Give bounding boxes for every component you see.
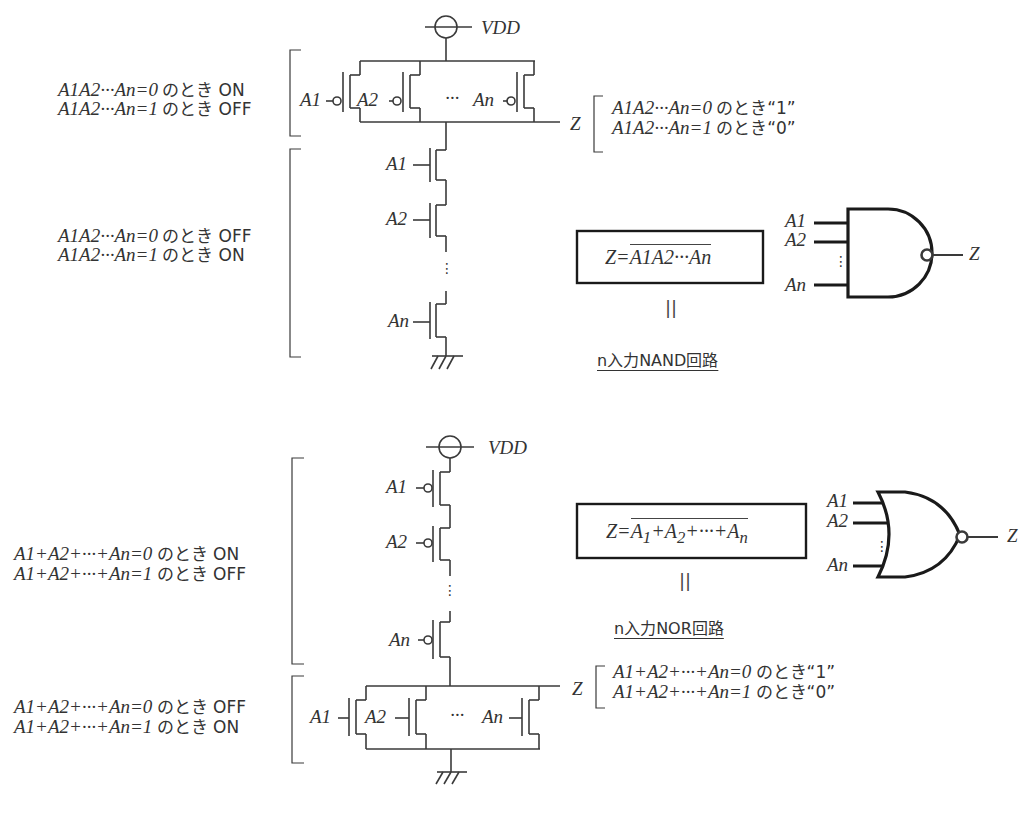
nand-nmos-note-line2: A1A2···An=1 のとき ON bbox=[58, 245, 245, 266]
nor-nmos-input-a1: A1 bbox=[310, 707, 331, 728]
vdd-symbol-nand bbox=[425, 16, 472, 61]
text: のとき“0” bbox=[756, 682, 835, 702]
nand-output-z: Z bbox=[570, 114, 581, 135]
input-label: A2 bbox=[357, 89, 378, 110]
nand-gate-output-z: Z bbox=[969, 244, 980, 265]
nor-output-note-line2: A1+A2+···+An=1 のとき“0” bbox=[613, 682, 835, 703]
nand-nmos-input-an: An bbox=[388, 311, 409, 332]
nand-vdd-label: VDD bbox=[481, 18, 520, 39]
text: のとき“1” bbox=[716, 98, 795, 118]
nor-pmos-note-line2: A1+A2+···+An=1 のとき OFF bbox=[14, 564, 246, 585]
input-label: A2 bbox=[386, 208, 407, 229]
input-label: An bbox=[389, 629, 410, 650]
text: のとき ON bbox=[162, 80, 245, 100]
expr: A1+A2+···+An=0 bbox=[14, 543, 152, 564]
nand-nmos-input-a2: A2 bbox=[386, 209, 407, 230]
nor-pmos-vdots: ⋮ bbox=[443, 580, 457, 601]
nor-nmos-note-line2: A1+A2+···+An=1 のとき ON bbox=[14, 717, 239, 738]
input-label: A1 bbox=[310, 706, 331, 727]
input-label: A1 bbox=[785, 210, 806, 231]
nor-output-z: Z bbox=[572, 679, 583, 700]
nor-output-note-line1: A1+A2+···+An=0 のとき“1” bbox=[613, 662, 835, 683]
ellipsis: ⋮ bbox=[443, 582, 457, 598]
expr: A1A2···An=0 bbox=[612, 97, 712, 118]
svg-text:⋮: ⋮ bbox=[875, 538, 889, 554]
nand-title: n入力NAND回路 bbox=[597, 347, 718, 371]
text: のとき ON bbox=[162, 245, 245, 265]
input-label: A2 bbox=[386, 531, 407, 552]
input-label: An bbox=[482, 706, 503, 727]
nor-gate-input-an: An bbox=[827, 555, 848, 576]
nor-equals-mark: || bbox=[679, 570, 691, 591]
text: のとき“0” bbox=[716, 118, 795, 138]
input-label: A2 bbox=[785, 229, 806, 250]
nor-pmos-input-an: An bbox=[389, 630, 410, 651]
expr: A1A2···An=0 bbox=[58, 225, 158, 246]
text: のとき“1” bbox=[756, 662, 835, 682]
nand-pmos-input-a2: A2 bbox=[357, 90, 378, 111]
expr: A1+A2+···+An=0 bbox=[14, 696, 152, 717]
circuit-diagram: ⋮ bbox=[0, 0, 1032, 814]
nor-nmos-network bbox=[338, 686, 560, 784]
ellipsis: ··· bbox=[450, 704, 464, 725]
nor-gate-output-z: Z bbox=[1007, 526, 1018, 547]
nand-gate-input-a2: A2 bbox=[785, 230, 806, 251]
nand-equals-mark: || bbox=[665, 297, 677, 318]
input-label: A1 bbox=[386, 153, 407, 174]
z-label: Z bbox=[969, 243, 980, 264]
ellipsis: ⋮ bbox=[440, 260, 454, 276]
input-label: A1 bbox=[300, 89, 321, 110]
formula-a2: A2 bbox=[652, 244, 674, 268]
expr: A1A2···An=1 bbox=[612, 117, 712, 138]
nor-nmos-note-line1: A1+A2+···+An=0 のとき OFF bbox=[14, 697, 246, 718]
input-label: An bbox=[785, 274, 806, 295]
expr: A1A2···An=1 bbox=[58, 98, 158, 119]
vdd-text: VDD bbox=[481, 17, 520, 38]
ellipsis: ··· bbox=[445, 87, 459, 108]
input-label: A1 bbox=[386, 476, 407, 497]
nand-pmos-ellipsis: ··· bbox=[445, 88, 459, 109]
nor-nmos-input-an: An bbox=[482, 707, 503, 728]
nor-formula: Z=A1+A2+···+An bbox=[606, 520, 748, 548]
nor-pmos-input-a2: A2 bbox=[386, 532, 407, 553]
nor-gate-symbol: ⋮ bbox=[853, 492, 998, 577]
input-label: An bbox=[473, 89, 494, 110]
expr: A1+A2+···+An=1 bbox=[613, 681, 751, 702]
expr: A1+A2+···+An=0 bbox=[613, 661, 751, 682]
z-label: Z bbox=[1007, 525, 1018, 546]
expr: A1+A2+···+An=1 bbox=[14, 716, 152, 737]
z-label: Z bbox=[570, 113, 581, 134]
text: のとき ON bbox=[157, 544, 240, 564]
text: のとき OFF bbox=[162, 226, 251, 246]
text: のとき OFF bbox=[157, 564, 246, 584]
nor-gate-input-a1: A1 bbox=[827, 491, 848, 512]
text: のとき OFF bbox=[157, 697, 246, 717]
nor-pmos-note-line1: A1+A2+···+An=0 のとき ON bbox=[14, 544, 239, 565]
nand-pmos-input-a1: A1 bbox=[300, 90, 321, 111]
input-label: A2 bbox=[365, 706, 386, 727]
nand-gate-symbol: ⋮ bbox=[814, 209, 963, 297]
nor-title: n入力NOR回路 bbox=[614, 615, 724, 639]
nor-pmos-network bbox=[416, 470, 450, 686]
text: のとき ON bbox=[157, 717, 240, 737]
nand-nmos-input-a1: A1 bbox=[386, 154, 407, 175]
input-label: A1 bbox=[827, 490, 848, 511]
nand-nmos-network bbox=[413, 122, 463, 369]
vdd-text: VDD bbox=[488, 437, 527, 458]
nand-formula: Z=A1A2···An bbox=[605, 246, 711, 269]
nor-nmos-input-a2: A2 bbox=[365, 707, 386, 728]
expr: A1A2···An=0 bbox=[58, 79, 158, 100]
vdd-symbol-nor bbox=[426, 436, 474, 472]
nand-gate-input-an: An bbox=[785, 275, 806, 296]
formula-an: An bbox=[689, 244, 711, 268]
formula-a1: A1 bbox=[630, 244, 652, 268]
nand-output-note-line2: A1A2···An=1 のとき“0” bbox=[612, 118, 796, 139]
expr: A1+A2+···+An=1 bbox=[14, 563, 152, 584]
nor-nmos-ellipsis: ··· bbox=[450, 705, 464, 726]
expr: A1A2···An=1 bbox=[58, 244, 158, 265]
nand-pmos-input-an: An bbox=[473, 90, 494, 111]
nor-vdd-label: VDD bbox=[488, 438, 527, 459]
text: のとき OFF bbox=[162, 99, 251, 119]
svg-text:⋮: ⋮ bbox=[834, 253, 848, 269]
nand-pmos-note-line2: A1A2···An=1 のとき OFF bbox=[58, 99, 251, 120]
